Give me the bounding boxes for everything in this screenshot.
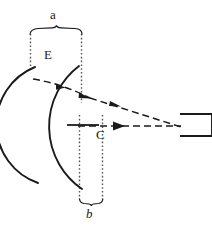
edge-ray-E-refracted-arrowhead [109,101,121,107]
label-aperture-b: b [86,207,93,220]
inner-arc [0,67,38,183]
bottom-brace [80,199,103,206]
edge-ray-E-arrowhead-2 [79,93,91,99]
top-brace [30,26,82,35]
outer-arc [49,66,82,189]
detector-rectangle [180,114,212,136]
label-edge-ray-E: E [44,48,52,61]
label-aperture-a: a [50,8,56,21]
ray-diagram-figure: a b E C [0,0,212,230]
center-ray-C-arrowhead [113,122,125,131]
edge-ray-E-refracted [90,98,181,127]
label-center-ray-C: C [96,128,105,141]
diagram-canvas [0,0,212,230]
